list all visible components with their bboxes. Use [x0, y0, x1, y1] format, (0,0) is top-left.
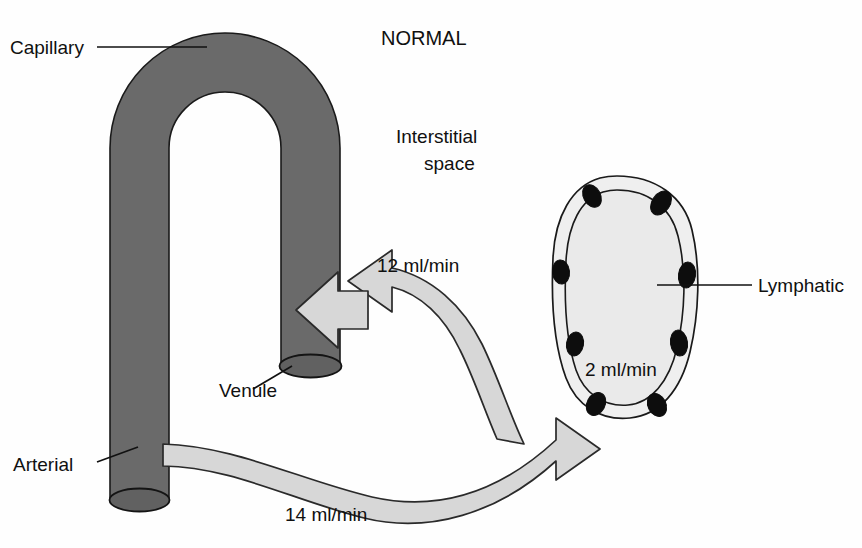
- label-capillary: Capillary: [10, 37, 84, 58]
- diagram-canvas: NORMAL Capillary Venule Arterial Lymphat…: [0, 0, 862, 548]
- label-interstitial-space-line1: Interstitial: [396, 126, 477, 147]
- flow-band-arterial-to-lymphatic: [163, 418, 600, 523]
- label-venule: Venule: [219, 380, 277, 401]
- capillary-vessel: [110, 33, 342, 511]
- normal-capillary-lymph-diagram: NORMAL Capillary Venule Arterial Lymphat…: [0, 0, 862, 548]
- capillary-arch-shape: [110, 33, 340, 500]
- venule-lumen-opening: [280, 355, 342, 378]
- flow-label-lymphatic-in: 2 ml/min: [585, 359, 657, 380]
- lymphatic-vessel: [551, 176, 698, 420]
- flow-band-interstitial-to-venule: [348, 250, 524, 444]
- flow-label-arterial-out: 14 ml/min: [285, 504, 367, 525]
- flow-label-venule-in: 12 ml/min: [377, 255, 459, 276]
- label-lymphatic: Lymphatic: [758, 275, 844, 296]
- label-arterial: Arterial: [13, 454, 73, 475]
- arterial-lumen-opening: [110, 489, 170, 512]
- page-title: NORMAL: [381, 27, 467, 49]
- label-interstitial-space-line2: space: [424, 153, 475, 174]
